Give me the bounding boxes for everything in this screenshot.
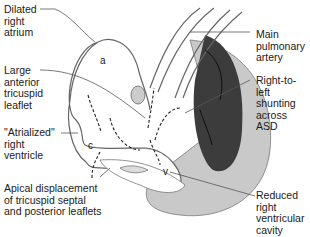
label-dilated-right-atrium: Dilated right atrium [4,4,37,39]
label-apical-displacement: Apical displacement of tricuspid septal … [4,183,101,218]
label-large-anterior-leaflet: Large anterior tricuspid leaflet [4,65,43,111]
chamber-c: c [88,140,93,151]
label-reduced-rv-cavity: Reduced right ventricular cavity [256,190,304,236]
chamber-a: a [100,55,106,66]
label-atrialized-rv: "Atrialized" right ventricle [4,127,55,162]
label-main-pulmonary-artery: Main pulmonary artery [256,29,305,64]
chamber-v: v [163,166,168,177]
label-right-to-left-shunt: Right-to-left shunting across ASD [256,75,310,133]
